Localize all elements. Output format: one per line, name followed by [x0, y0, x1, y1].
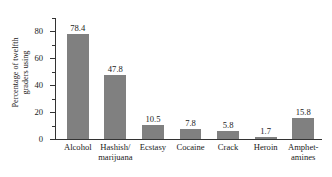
- x-axis-line: [55, 139, 322, 140]
- x-axis-label: Alcohol: [64, 142, 92, 152]
- x-axis-label-line: Amphet-: [288, 142, 319, 152]
- bar: [67, 34, 89, 139]
- bar-value-label: 10.5: [145, 114, 160, 124]
- x-axis-label: Amphet-amines: [288, 142, 319, 162]
- y-tick-label: 60: [34, 53, 43, 63]
- x-axis-label: Cocaine: [176, 142, 204, 152]
- y-tick-major: 20: [50, 112, 55, 113]
- x-axis-labels: AlcoholHashish/marijuanaEcstasyCocaineCr…: [55, 142, 322, 177]
- bar-value-label: 47.8: [108, 64, 123, 74]
- bar-value-label: 5.8: [223, 120, 234, 130]
- y-tick-minor: [52, 72, 55, 73]
- x-axis-label: Crack: [218, 142, 239, 152]
- y-tick-major: 40: [50, 85, 55, 86]
- y-axis-title: Percentage of twelfth graders using: [0, 0, 40, 145]
- bar-chart: Percentage of twelfth graders using 0204…: [0, 0, 332, 177]
- y-tick-label: 40: [34, 80, 43, 90]
- y-tick-major: 60: [50, 58, 55, 59]
- bar: [292, 118, 314, 139]
- y-tick-major: 0: [50, 139, 55, 140]
- plot-area: 020406080 78.447.810.57.85.81.715.8: [55, 18, 322, 140]
- x-axis-label: Heroin: [254, 142, 278, 152]
- y-tick-label: 0: [39, 134, 43, 144]
- bar-value-label: 15.8: [296, 107, 311, 117]
- x-axis-label: Hashish/marijuana: [98, 142, 132, 162]
- y-tick-minor: [52, 126, 55, 127]
- bar: [217, 131, 239, 139]
- x-axis-label-line: Crack: [218, 142, 239, 152]
- bar: [104, 75, 126, 139]
- y-tick-minor: [52, 99, 55, 100]
- x-axis-label-line: Alcohol: [64, 142, 92, 152]
- x-axis-label-line: amines: [288, 152, 319, 162]
- bar-value-label: 78.4: [70, 23, 85, 33]
- x-axis-label-line: Hashish/: [98, 142, 132, 152]
- y-tick-minor: [52, 45, 55, 46]
- bar: [180, 129, 202, 139]
- x-axis-label-line: Ecstasy: [140, 142, 166, 152]
- y-tick-major: 80: [50, 31, 55, 32]
- y-axis-title-line-2: graders using: [20, 37, 30, 107]
- y-tick-label: 20: [34, 107, 43, 117]
- x-axis-label-line: Cocaine: [176, 142, 204, 152]
- y-axis-line: [55, 18, 56, 140]
- x-axis-label-line: Heroin: [254, 142, 278, 152]
- bar-value-label: 1.7: [260, 126, 271, 136]
- bar: [255, 137, 277, 139]
- x-axis-label-line: marijuana: [98, 152, 132, 162]
- y-tick-minor: [52, 18, 55, 19]
- bar-value-label: 7.8: [185, 118, 196, 128]
- bar: [142, 125, 164, 139]
- y-tick-label: 80: [34, 26, 43, 36]
- x-axis-label: Ecstasy: [140, 142, 166, 152]
- y-axis-title-line-1: Percentage of twelfth: [11, 37, 21, 107]
